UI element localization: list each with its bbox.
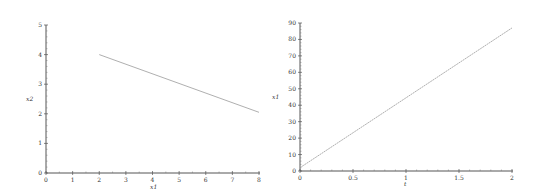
y-tick-label: 3 bbox=[38, 80, 42, 87]
y-tick-label: 0 bbox=[292, 167, 296, 174]
y-tick-label: 0 bbox=[38, 169, 42, 176]
y-tick-label: 10 bbox=[288, 151, 296, 158]
y-tick-label: 5 bbox=[38, 21, 42, 28]
right-plot: 0102030405060708090 00.511.52 x1 t bbox=[272, 19, 514, 187]
y-tick-label: 40 bbox=[288, 101, 296, 108]
x-tick-label: 0 bbox=[44, 176, 48, 183]
left-plot: 012345 012345678 x2 x1 bbox=[26, 21, 261, 190]
y-tick-label: 50 bbox=[288, 85, 296, 92]
right-y-axis-label: x1 bbox=[272, 93, 279, 100]
left-y-axis-label: x2 bbox=[26, 95, 33, 102]
y-tick-label: 2 bbox=[38, 110, 42, 117]
y-tick-label: 90 bbox=[288, 19, 296, 26]
x-tick-label: 6 bbox=[204, 176, 208, 183]
right-data-line bbox=[300, 28, 512, 168]
x-tick-label: 8 bbox=[257, 176, 261, 183]
x-tick-label: 7 bbox=[230, 176, 234, 183]
x-tick-label: 2 bbox=[510, 174, 514, 181]
y-tick-label: 60 bbox=[288, 68, 296, 75]
y-tick-label: 20 bbox=[288, 134, 296, 141]
x-tick-label: 3 bbox=[124, 176, 128, 183]
right-x-axis-label: t bbox=[404, 180, 407, 187]
x-tick-label: 1 bbox=[71, 176, 75, 183]
left-x-axis-label: x1 bbox=[150, 183, 157, 190]
y-tick-label: 1 bbox=[38, 139, 42, 146]
x-tick-label: 5 bbox=[177, 176, 181, 183]
left-y-ticks: 012345 bbox=[38, 21, 48, 176]
x-tick-label: 0 bbox=[298, 174, 302, 181]
y-tick-label: 80 bbox=[288, 35, 296, 42]
y-tick-label: 30 bbox=[288, 118, 296, 125]
x-tick-label: 1.5 bbox=[454, 174, 464, 181]
y-tick-label: 4 bbox=[38, 51, 42, 58]
x-tick-label: 2 bbox=[97, 176, 101, 183]
x-tick-label: 0.5 bbox=[348, 174, 358, 181]
left-data-line bbox=[99, 55, 259, 113]
x-tick-label: 4 bbox=[151, 176, 155, 183]
figure: 012345 012345678 x2 x1 01020304050607080… bbox=[0, 0, 533, 194]
y-tick-label: 70 bbox=[288, 52, 296, 59]
